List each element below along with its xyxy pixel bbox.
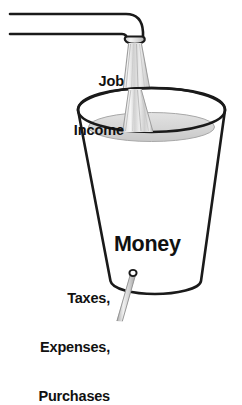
label-taxes-expenses-purchases: Taxes, Expenses, Purchases (0, 258, 110, 405)
label-outflow-line2: Expenses, (0, 339, 110, 355)
label-outflow-line3: Purchases (0, 388, 110, 404)
label-job-income-line2: Income (0, 122, 124, 138)
label-job-income: Job Income (0, 41, 124, 171)
label-outflow-line1: Taxes, (0, 290, 110, 306)
spout-icon (125, 37, 145, 44)
label-job-income-line1: Job (0, 73, 124, 89)
label-money: Money (114, 184, 181, 304)
label-money-text: Money (114, 232, 181, 256)
pipe-icon (10, 14, 143, 40)
